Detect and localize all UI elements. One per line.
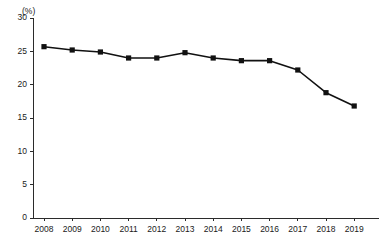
y-tick-label: 20 [18, 79, 28, 89]
data-point-marker [182, 50, 187, 55]
x-tick-label: 2008 [35, 224, 54, 234]
series-line [44, 47, 354, 106]
x-tick-label: 2010 [91, 224, 110, 234]
data-point-marker [295, 67, 300, 72]
line-chart: 051015202530 200820092010201120122013201… [0, 0, 387, 250]
y-tick-label: 5 [22, 179, 27, 189]
data-point-marker [239, 58, 244, 63]
x-tick-label: 2012 [147, 224, 166, 234]
data-point-marker [352, 103, 357, 108]
y-tick-label: 10 [18, 146, 28, 156]
x-tick-label: 2016 [260, 224, 279, 234]
x-axis-ticks: 2008200920102011201220132014201520162017… [35, 218, 364, 234]
chart-axes [33, 18, 379, 218]
x-tick-label: 2017 [288, 224, 307, 234]
data-point-marker [323, 90, 328, 95]
data-point-marker [154, 55, 159, 60]
y-tick-label: 0 [22, 212, 27, 222]
y-axis-unit-label: (%) [22, 6, 35, 16]
y-tick-label: 15 [18, 112, 28, 122]
x-tick-label: 2019 [345, 224, 364, 234]
chart-canvas: 051015202530 200820092010201120122013201… [0, 0, 387, 250]
x-tick-label: 2013 [176, 224, 195, 234]
y-axis-ticks: 051015202530 [18, 12, 33, 222]
data-point-marker [41, 44, 46, 49]
series-markers [41, 44, 356, 109]
data-point-marker [70, 47, 75, 52]
x-tick-label: 2015 [232, 224, 251, 234]
x-tick-label: 2011 [119, 224, 138, 234]
y-tick-label: 25 [18, 46, 28, 56]
x-tick-label: 2009 [63, 224, 82, 234]
data-point-marker [267, 58, 272, 63]
data-point-marker [211, 55, 216, 60]
data-point-marker [98, 49, 103, 54]
x-tick-label: 2014 [204, 224, 223, 234]
data-point-marker [126, 55, 131, 60]
x-tick-label: 2018 [317, 224, 336, 234]
